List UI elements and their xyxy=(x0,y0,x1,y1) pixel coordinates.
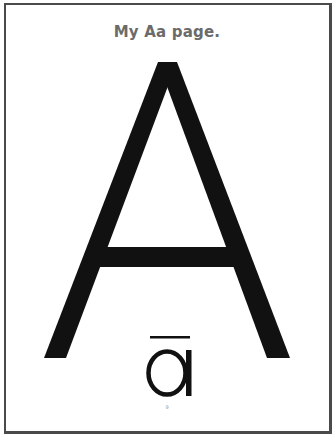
macron-mark xyxy=(150,336,190,339)
lowercase-a-glyph xyxy=(149,336,192,396)
uppercase-a-glyph xyxy=(44,62,290,358)
letter-artwork xyxy=(0,0,334,436)
page-number: 9 xyxy=(162,404,172,410)
